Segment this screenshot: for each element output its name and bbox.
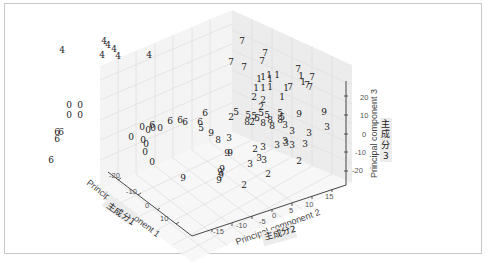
data-point: 8	[269, 121, 275, 131]
data-point: 0	[66, 100, 72, 110]
z-annotation-char-1: 主	[381, 118, 390, 129]
data-point: 3	[302, 139, 308, 149]
z-annotation-char-4: 3	[383, 151, 389, 161]
data-point: 0	[157, 123, 163, 133]
data-point: 1	[300, 77, 306, 87]
data-point: 4	[115, 51, 121, 61]
data-point: 0	[128, 132, 134, 142]
x-tick-label: -20	[109, 171, 120, 180]
data-point: 6	[54, 134, 60, 144]
data-point: 9	[296, 109, 302, 119]
y-tick-label: 5	[289, 206, 293, 215]
data-point: 1	[260, 83, 266, 93]
data-point: 0	[66, 110, 72, 120]
data-point: 3	[283, 138, 289, 148]
y-tick-label: -15	[213, 227, 224, 236]
data-point: 3	[282, 120, 288, 130]
data-point: 9	[321, 107, 327, 117]
data-point: 1	[267, 74, 273, 84]
data-point: 8	[260, 118, 266, 128]
data-point: 6	[182, 117, 188, 127]
y-tick-label: -10	[236, 221, 247, 230]
data-point: 8	[244, 117, 250, 127]
data-point: 1	[279, 92, 285, 102]
z-annotation-box: 主 成 分 3	[380, 118, 392, 162]
data-point: 4	[146, 50, 152, 60]
data-point: 8	[215, 135, 221, 145]
data-point: 4	[59, 45, 65, 55]
data-point: 6	[202, 108, 208, 118]
z-tick-label: 20	[360, 93, 368, 102]
x-tick-label: -10	[126, 187, 137, 196]
data-point: 6	[167, 116, 173, 126]
data-point: 0	[150, 123, 156, 133]
data-point: 3	[247, 159, 253, 169]
data-point: 0	[77, 110, 83, 120]
data-point: 4	[99, 50, 105, 60]
data-point: 5	[233, 107, 239, 117]
data-point: 7	[309, 72, 315, 82]
data-point: 7	[241, 62, 247, 72]
data-point: 3	[306, 128, 312, 138]
data-point: 9	[216, 175, 222, 185]
data-point: 3	[324, 122, 330, 132]
data-point: 3	[261, 155, 267, 165]
data-point: 6	[197, 117, 203, 127]
data-point: 2	[296, 156, 302, 166]
y-tick-label: 15	[325, 192, 333, 201]
data-point: 0	[77, 100, 83, 110]
data-point: 9	[180, 173, 186, 183]
data-point: 7	[239, 36, 245, 46]
data-point: 0	[142, 147, 148, 157]
data-point: 3	[226, 133, 232, 143]
data-point: 9	[208, 128, 214, 138]
data-point: 3	[289, 126, 295, 136]
data-point: 9	[227, 148, 233, 158]
z-annotation-char-3: 分	[381, 140, 390, 150]
data-point: 2	[251, 92, 257, 102]
y-tick-label: 0	[272, 211, 276, 220]
data-point: 7	[307, 82, 313, 92]
y-tick-label: 10	[305, 200, 313, 209]
3d-scatter-plot: -20-10010-15-10-505101520100-10-20 44444…	[0, 0, 491, 263]
data-point: 2	[241, 180, 247, 190]
x-tick-label: 10	[160, 214, 168, 223]
z-tick-label: -10	[355, 148, 366, 157]
data-point: 1	[274, 70, 280, 80]
data-point: 6	[48, 155, 54, 165]
data-point: 2	[265, 169, 271, 179]
data-point: 7	[259, 56, 265, 66]
x-tick-label: 0	[145, 201, 149, 210]
z-tick-label: 0	[362, 130, 366, 139]
z-tick-label: -20	[352, 166, 363, 175]
z-axis-label: Principal component 3	[369, 89, 379, 178]
z-annotation-char-2: 成	[381, 128, 390, 139]
data-point: 7	[228, 57, 234, 67]
data-point: 3	[260, 142, 266, 152]
data-point: 1	[260, 72, 266, 82]
data-point: 3	[274, 140, 280, 150]
data-point: 3	[289, 140, 295, 150]
y-tick-label: -5	[259, 217, 266, 226]
z-tick-label: 10	[360, 111, 368, 120]
data-point: 0	[149, 157, 155, 167]
